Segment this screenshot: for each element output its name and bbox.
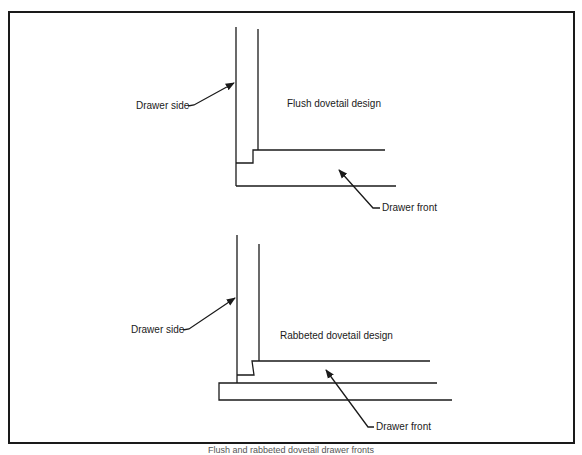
- figure-caption: Flush and rabbeted dovetail drawer front…: [0, 446, 582, 455]
- flush-design-title: Flush dovetail design: [287, 99, 381, 109]
- figure-frame: [9, 12, 574, 443]
- top-drawer-front-label: Drawer front: [382, 203, 437, 213]
- bottom-drawer-front-label: Drawer front: [376, 422, 431, 432]
- flush-dovetail-drawing: [188, 27, 396, 208]
- rabbeted-design-title: Rabbeted dovetail design: [280, 331, 393, 341]
- bottom-drawer-side-label: Drawer side: [131, 325, 184, 335]
- top-drawer-side-label: Drawer side: [136, 101, 189, 111]
